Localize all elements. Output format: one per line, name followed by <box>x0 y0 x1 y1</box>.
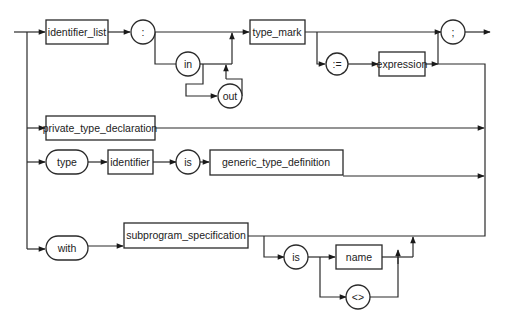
out-label: out <box>223 90 238 102</box>
generic-type-definition-label: generic_type_definition <box>222 156 330 168</box>
syntax-diagram: identifier_list : in out type_mark := ex… <box>0 0 510 330</box>
node-type-mark: type_mark <box>250 20 305 44</box>
node-semicolon: ; <box>441 20 465 44</box>
node-generic-type-definition: generic_type_definition <box>210 150 343 175</box>
node-private-type-declaration: private_type_declaration <box>43 116 158 140</box>
private-type-declaration-label: private_type_declaration <box>43 122 158 134</box>
in-label: in <box>184 58 192 70</box>
expression-label: expression <box>377 58 428 70</box>
node-with-keyword: with <box>46 236 88 260</box>
node-name: name <box>336 245 382 269</box>
identifier-list-label: identifier_list <box>48 26 106 38</box>
semicolon-label: ; <box>452 26 455 38</box>
node-in: in <box>176 52 200 76</box>
node-type-keyword: type <box>46 150 88 174</box>
name-label: name <box>346 251 372 263</box>
node-is-keyword-1: is <box>176 150 200 174</box>
with-keyword-label: with <box>57 242 77 254</box>
node-colon: : <box>131 20 155 44</box>
identifier-label: identifier <box>110 156 150 168</box>
box-label: <> <box>352 291 364 303</box>
node-out: out <box>218 84 242 108</box>
node-expression: expression <box>377 52 428 76</box>
type-keyword-label: type <box>57 156 77 168</box>
node-assign: := <box>326 53 348 75</box>
subprogram-specification-label: subprogram_specification <box>126 229 246 241</box>
is-keyword-2-label: is <box>292 251 300 263</box>
assign-label: := <box>332 58 341 70</box>
node-identifier-list: identifier_list <box>46 20 108 44</box>
node-is-keyword-2: is <box>284 245 308 269</box>
node-box: <> <box>346 285 370 309</box>
is-keyword-1-label: is <box>184 156 192 168</box>
type-mark-label: type_mark <box>252 26 302 38</box>
colon-label: : <box>142 26 145 38</box>
node-identifier: identifier <box>108 150 153 174</box>
node-subprogram-specification: subprogram_specification <box>124 223 248 248</box>
